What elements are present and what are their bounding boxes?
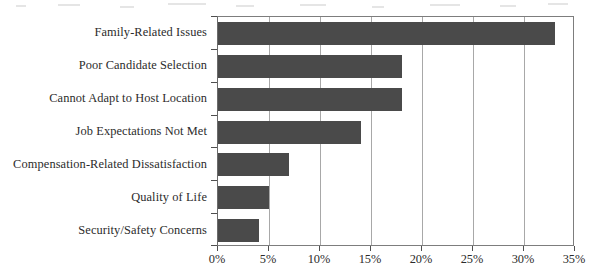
category-label: Job Expectations Not Met bbox=[76, 124, 207, 138]
x-axis-label: 25% bbox=[461, 252, 484, 267]
x-axis-tick bbox=[319, 246, 320, 251]
x-axis-label: 10% bbox=[308, 252, 331, 267]
bar bbox=[218, 186, 269, 209]
category-label-column: Family-Related IssuesPoor Candidate Sele… bbox=[0, 16, 213, 246]
plot-area bbox=[217, 16, 574, 246]
category-label: Poor Candidate Selection bbox=[79, 58, 207, 72]
x-axis-tick bbox=[217, 246, 218, 251]
x-axis-label: 15% bbox=[359, 252, 382, 267]
x-axis: 0%5%10%15%20%25%30%35% bbox=[217, 246, 574, 276]
x-axis-label: 35% bbox=[563, 252, 586, 267]
scan-artifact-band bbox=[0, 0, 598, 14]
x-axis-tick bbox=[370, 246, 371, 251]
x-axis-tick bbox=[421, 246, 422, 251]
x-axis-label: 5% bbox=[260, 252, 277, 267]
x-axis-tick bbox=[472, 246, 473, 251]
bar-chart: Family-Related IssuesPoor Candidate Sele… bbox=[0, 0, 598, 277]
x-axis-tick bbox=[574, 246, 575, 251]
x-axis-tick bbox=[523, 246, 524, 251]
x-axis-label: 20% bbox=[410, 252, 433, 267]
bar bbox=[218, 153, 289, 176]
bar bbox=[218, 219, 259, 242]
gridline bbox=[422, 17, 423, 245]
bar bbox=[218, 22, 555, 45]
gridline bbox=[524, 17, 525, 245]
category-label: Family-Related Issues bbox=[94, 25, 207, 39]
x-axis-label: 30% bbox=[512, 252, 535, 267]
x-axis-tick bbox=[268, 246, 269, 251]
gridline bbox=[371, 17, 372, 245]
gridline bbox=[473, 17, 474, 245]
bar bbox=[218, 88, 402, 111]
bar bbox=[218, 55, 402, 78]
category-label: Compensation-Related Dissatisfaction bbox=[13, 157, 207, 171]
bar bbox=[218, 121, 361, 144]
category-label: Quality of Life bbox=[131, 190, 207, 204]
category-label: Cannot Adapt to Host Location bbox=[49, 91, 207, 105]
x-axis-label: 0% bbox=[209, 252, 226, 267]
category-label: Security/Safety Concerns bbox=[78, 223, 207, 237]
